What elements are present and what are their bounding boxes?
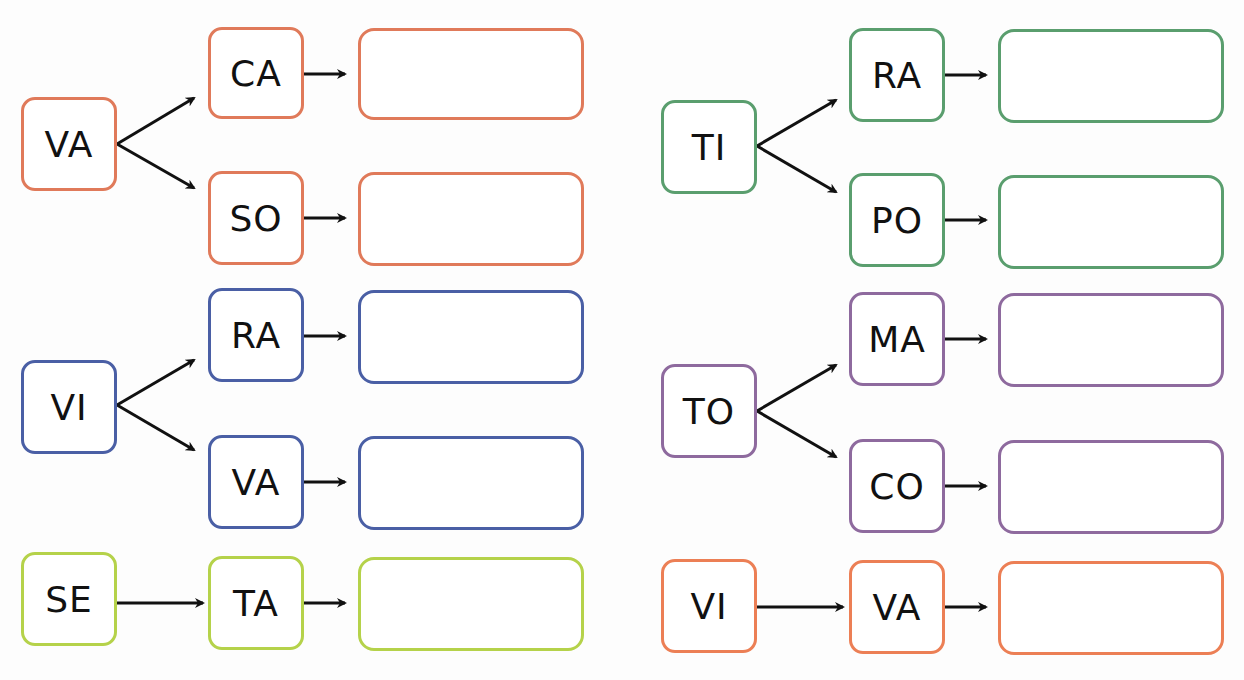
answer-box[interactable] <box>998 175 1224 269</box>
syllable-label: VA <box>873 587 922 628</box>
root-box: TI <box>661 100 757 194</box>
syllable-label: MA <box>868 319 926 360</box>
syllable-box: RA <box>849 28 945 122</box>
syllable-label: CO <box>869 466 924 507</box>
answer-box[interactable] <box>358 28 584 120</box>
root-box: VA <box>21 97 117 191</box>
syllable-label: RA <box>231 315 281 356</box>
answer-box[interactable] <box>358 557 584 651</box>
syllable-box: CO <box>849 439 945 533</box>
syllable-box: TA <box>208 556 304 650</box>
root-box: SE <box>21 552 117 646</box>
syllable-box: RA <box>208 288 304 382</box>
root-box: TO <box>661 364 757 458</box>
syllable-label: RA <box>872 55 922 96</box>
root-label: VA <box>45 124 94 165</box>
answer-box[interactable] <box>998 561 1224 655</box>
syllable-box: PO <box>849 173 945 267</box>
root-label: SE <box>45 579 93 620</box>
syllable-label: CA <box>230 53 282 94</box>
answer-box[interactable] <box>358 172 584 266</box>
syllable-box: VA <box>849 560 945 654</box>
syllable-box: MA <box>849 292 945 386</box>
syllable-box: VA <box>208 435 304 529</box>
answer-box[interactable] <box>998 440 1224 534</box>
root-box: VI <box>21 360 117 454</box>
syllable-label: SO <box>229 198 282 239</box>
answer-box[interactable] <box>358 290 584 384</box>
answer-box[interactable] <box>358 436 584 530</box>
root-box: VI <box>661 559 757 653</box>
root-label: VI <box>50 387 87 428</box>
answer-box[interactable] <box>998 29 1224 123</box>
syllable-box: SO <box>208 171 304 265</box>
root-label: VI <box>690 586 727 627</box>
syllable-label: PO <box>871 200 923 241</box>
root-label: TO <box>683 391 735 432</box>
root-label: TI <box>692 127 727 168</box>
syllable-box: CA <box>208 27 304 119</box>
syllable-label: TA <box>233 583 279 624</box>
syllable-label: VA <box>232 462 281 503</box>
answer-box[interactable] <box>998 293 1224 387</box>
